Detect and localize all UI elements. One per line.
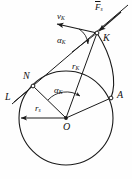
velocity-vector-label: vK [57, 12, 65, 22]
radius-rs-label: rs [35, 104, 41, 114]
point-N-label: N [23, 71, 30, 81]
force-vector-arrow [99, 12, 121, 31]
force-vector-label: Fs [95, 3, 103, 13]
point-N-dot [31, 84, 35, 88]
point-K-label: K [103, 33, 110, 43]
angle-alpha-o-arc [48, 92, 80, 100]
point-A-label: A [117, 90, 123, 100]
involute-geometry-figure: K N A O L vK Fs αK rK αK rs [0, 0, 132, 179]
radius-oa-line [66, 98, 111, 118]
figure-canvas [0, 0, 132, 179]
point-A-dot [109, 96, 113, 100]
point-O-label: O [63, 122, 70, 132]
radius-rk-line [66, 33, 97, 118]
point-K-dot [95, 31, 99, 35]
angle-alpha-k-arc [79, 29, 88, 44]
velocity-vector-arrow [57, 24, 97, 33]
point-O-dot [64, 116, 68, 120]
angle-alpha-o-label: αK [54, 86, 62, 96]
line-L-label: L [5, 92, 11, 102]
angle-alpha-k-label: αK [57, 36, 65, 46]
radius-rk-label: rK [72, 62, 79, 72]
